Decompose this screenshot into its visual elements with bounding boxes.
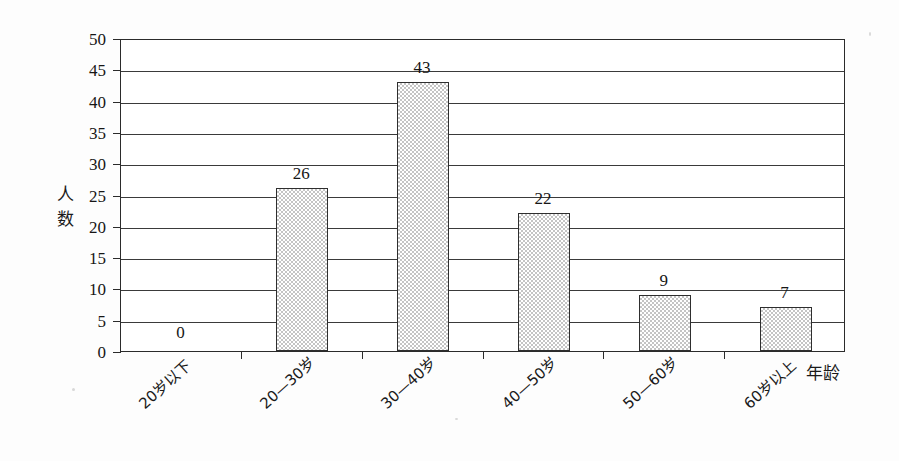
y-tick-label: 0 — [72, 344, 106, 361]
gridline — [121, 71, 844, 72]
y-tick-label: 50 — [72, 31, 106, 48]
gridline — [121, 228, 844, 229]
gridline — [121, 290, 844, 291]
y-tick-label: 20 — [72, 219, 106, 236]
y-tick-label: 25 — [72, 188, 106, 205]
x-axis-title: 年龄 — [806, 364, 840, 383]
y-tick-label: 5 — [72, 313, 106, 330]
x-category-label: 50—60岁 — [620, 354, 681, 412]
x-category-label: 60岁以上 — [741, 357, 799, 412]
bar-value-label: 0 — [150, 324, 210, 341]
x-category-label: 30—40岁 — [378, 354, 439, 412]
x-tick-mark — [724, 352, 725, 359]
y-tick-label: 30 — [72, 156, 106, 173]
bar — [397, 82, 449, 351]
bar-value-label: 7 — [755, 284, 815, 301]
gridline — [121, 259, 844, 260]
bar — [518, 213, 570, 351]
y-tick-label: 45 — [72, 62, 106, 79]
gridline — [121, 134, 844, 135]
x-tick-mark — [362, 352, 363, 359]
x-tick-mark — [483, 352, 484, 359]
y-tick-mark — [113, 352, 121, 353]
plot-area — [120, 39, 845, 352]
bar-chart-figure: 人 数 50454035302520151050 026432297 20岁以下… — [0, 0, 899, 461]
x-category-label: 20—30岁 — [257, 354, 318, 412]
bar — [639, 295, 691, 351]
bar-value-label: 43 — [392, 59, 452, 76]
scan-speckle — [869, 32, 871, 36]
gridline — [121, 165, 844, 166]
x-category-label: 20岁以下 — [136, 357, 194, 412]
x-tick-mark — [241, 352, 242, 359]
gridline — [121, 322, 844, 323]
y-tick-label: 15 — [72, 250, 106, 267]
bar — [276, 188, 328, 351]
gridline — [121, 197, 844, 198]
bar-value-label: 26 — [271, 165, 331, 182]
scan-speckle — [455, 418, 458, 420]
bar-value-label: 22 — [513, 190, 573, 207]
x-tick-mark — [603, 352, 604, 359]
bar-value-label: 9 — [634, 272, 694, 289]
y-tick-label: 10 — [72, 281, 106, 298]
x-category-label: 40—50岁 — [499, 354, 560, 412]
y-tick-label: 35 — [72, 125, 106, 142]
bar — [760, 307, 812, 351]
scan-speckle — [72, 388, 75, 391]
gridline — [121, 103, 844, 104]
y-tick-label: 40 — [72, 94, 106, 111]
